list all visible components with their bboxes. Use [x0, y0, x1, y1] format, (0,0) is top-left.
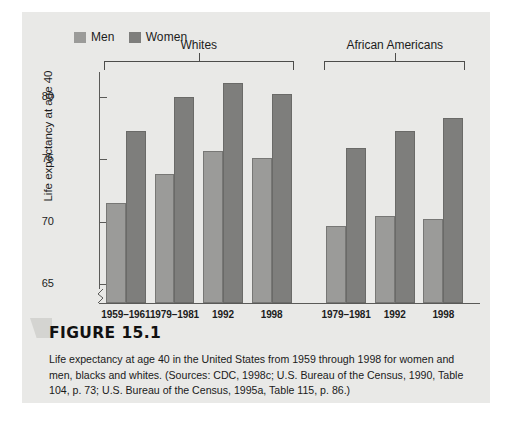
figure-caption: Life expectancy at age 40 in the United …	[49, 352, 469, 399]
y-axis-tick-label: 75	[32, 152, 54, 164]
legend-label-men: Men	[91, 30, 115, 44]
bar-men-1979-1981	[326, 226, 346, 303]
caption-block: FIGURE 15.1 Life expectancy at age 40 in…	[22, 316, 490, 403]
bars-plot-area	[100, 72, 480, 303]
bar-men-1992	[375, 216, 395, 303]
bar-women-1959-1961	[126, 131, 146, 303]
legend-swatch-men	[74, 32, 86, 43]
bar-women-1998	[272, 94, 292, 303]
figure-number: FIGURE 15.1	[49, 324, 161, 342]
bar-women-1992	[223, 83, 243, 303]
chart-area: Men Women Life expectancy at age 40 6570…	[22, 12, 490, 312]
bar-men-1979-1981	[155, 174, 175, 303]
y-axis-title: Life expectancy at age 40	[42, 66, 54, 206]
bar-women-1979-1981	[174, 97, 194, 303]
group-bracket-stem	[199, 53, 200, 61]
group-label-african-americans: African Americans	[346, 38, 443, 52]
y-axis-tick-label: 80	[32, 90, 54, 102]
legend-entry-men: Men	[74, 30, 115, 44]
legend-entry-women: Women	[129, 30, 188, 44]
bar-women-1979-1981	[346, 148, 366, 303]
y-axis-tick-label: 65	[32, 277, 54, 289]
group-bracket-african-americans	[324, 61, 465, 70]
bar-men-1998	[252, 158, 272, 303]
bar-women-1998	[443, 118, 463, 303]
bar-men-1959-1961	[106, 203, 126, 303]
figure-panel: Men Women Life expectancy at age 40 6570…	[22, 12, 490, 403]
group-bracket-stem	[395, 53, 396, 61]
y-axis-tick-label: 70	[32, 215, 54, 227]
bar-women-1992	[395, 131, 415, 303]
group-bracket-whites	[104, 61, 294, 70]
x-axis-line	[99, 303, 480, 304]
chart-legend: Men Women	[74, 30, 187, 44]
legend-swatch-women	[129, 32, 141, 43]
bar-men-1998	[423, 219, 443, 303]
group-label-whites: Whites	[180, 38, 217, 52]
bar-men-1992	[203, 151, 223, 303]
